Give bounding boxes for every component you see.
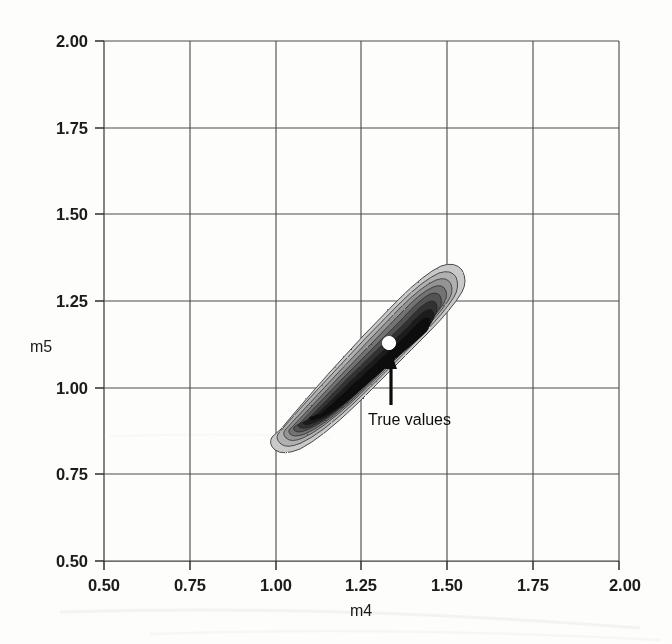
y-tick-label-0-75: 0.75 [56, 465, 88, 483]
x-axis-title: m4 [350, 602, 372, 619]
y-tick-label-1-00: 1.00 [56, 379, 88, 397]
true-values-label: True values [368, 411, 451, 428]
x-tick-label-1-75: 1.75 [517, 576, 549, 594]
y-tick-label-1-25: 1.25 [56, 292, 88, 310]
x-tick-label-1-00: 1.00 [260, 576, 292, 594]
x-tick-label-2-00: 2.00 [609, 576, 641, 594]
plot-canvas: 2.00 1.75 1.50 1.25 1.00 0.75 0.50 0.50 … [0, 0, 672, 644]
y-axis-title: m5 [30, 338, 52, 355]
x-tick-label-0-75: 0.75 [174, 576, 206, 594]
x-tick-label-1-25: 1.25 [345, 576, 377, 594]
y-tick-label-1-50: 1.50 [56, 205, 88, 223]
contour-plot-figure: 2.00 1.75 1.50 1.25 1.00 0.75 0.50 0.50 … [0, 0, 672, 644]
y-tick-label-2-00: 2.00 [56, 32, 88, 50]
true-values-marker [382, 336, 395, 349]
x-tick-label-1-50: 1.50 [431, 576, 463, 594]
y-tick-label-0-50: 0.50 [56, 552, 88, 570]
paper-background [0, 0, 672, 644]
x-tick-label-0-50: 0.50 [88, 576, 120, 594]
y-tick-label-1-75: 1.75 [56, 119, 88, 137]
